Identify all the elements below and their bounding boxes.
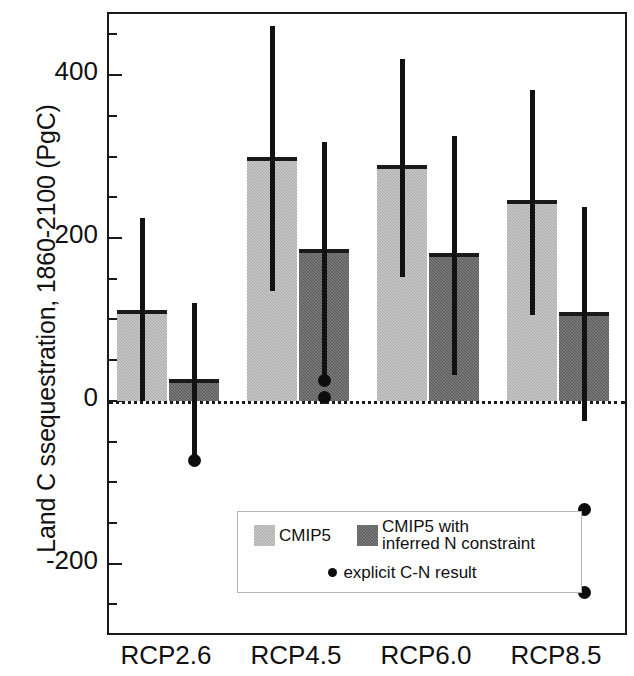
legend-row-points: explicit C-N result [238,564,581,581]
x-tick-label-rcp6-0: RCP6.0 [356,640,496,671]
y-tick-minor [109,441,117,443]
error-bar-rcp6-0-cmip5 [400,59,405,277]
error-bar-rcp2-6-cmip5 [140,218,145,401]
x-tick-label-rcp4-5: RCP4.5 [226,640,366,671]
y-tick-minor [109,481,117,483]
legend-dot-explicit-cn [328,568,337,577]
y-tick-minor [109,278,117,280]
y-tick-minor [109,522,117,524]
y-tick-minor [109,156,117,158]
plot-area: CMIP5 CMIP5 with inferred N constraint e… [107,12,627,635]
y-tick-minor [109,359,117,361]
y-tick-label: 200 [55,219,98,250]
error-bar-rcp4-5-cmip5 [270,26,275,291]
y-tick-label: 0 [84,382,98,413]
y-tick-minor [109,196,117,198]
explicit-cn-point-rcp2-6-1 [188,454,201,467]
y-tick-major [109,237,122,239]
y-tick-minor [109,318,117,320]
error-bar-rcp6-0-cmip5-n [452,136,457,375]
x-tick-label-rcp2-6: RCP2.6 [96,640,236,671]
y-tick-minor [109,603,117,605]
explicit-cn-point-rcp4-5-2 [318,391,331,404]
error-bar-rcp4-5-cmip5-n [322,142,327,377]
chart-figure: Land C ssequestration, 1860-2100 (PgC) C… [0,0,634,676]
y-tick-minor [109,115,117,117]
zero-reference-line [109,401,625,404]
y-tick-label: 400 [55,56,98,87]
error-bar-rcp2-6-cmip5-n [192,303,197,458]
y-tick-major [109,74,122,76]
y-tick-minor [109,33,117,35]
legend-row-bars: CMIP5 CMIP5 with inferred N constraint [238,518,581,552]
legend-label-cmip5-n-constraint: CMIP5 with inferred N constraint [382,518,535,552]
legend: CMIP5 CMIP5 with inferred N constraint e… [237,511,582,593]
y-tick-label: -200 [46,545,98,576]
legend-swatch-cmip5 [254,525,275,546]
error-bar-rcp8-5-cmip5-n [582,207,587,421]
error-bar-rcp8-5-cmip5 [530,90,535,316]
legend-label-cmip5: CMIP5 [279,527,331,544]
x-tick-label-rcp8-5: RCP8.5 [486,640,626,671]
legend-label-explicit-cn: explicit C-N result [343,564,476,581]
y-tick-major [109,563,122,565]
legend-swatch-cmip5-n-constraint [357,525,378,546]
